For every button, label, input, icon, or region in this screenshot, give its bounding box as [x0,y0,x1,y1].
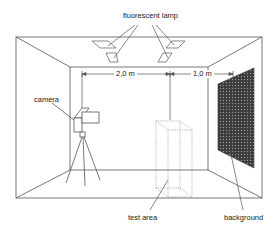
lamp-icon [158,53,172,62]
camera-icon [52,103,100,186]
dimension-lines [82,71,233,120]
background-panel [218,68,254,168]
dimension-1m-label: 1,0 m [191,70,214,78]
lab-setup-diagram [0,0,277,238]
room-edge-bottom-left [16,170,70,198]
lamp-label: fluorescent lamp [123,12,178,20]
camera-leader-line [52,103,74,120]
fluorescent-lamps [92,25,185,62]
lamp-icon [166,41,185,48]
dimension-2m-label: 2,0 m [114,70,137,78]
room-edge-top-right [208,37,262,67]
test-area-label: test area [128,214,157,222]
background-label: background [224,214,263,222]
room-edge-top-left [16,37,70,67]
lamp-icon [106,53,118,62]
test-area-box [156,121,192,197]
lamp-icon [92,41,116,48]
camera-label: camera [34,96,59,104]
